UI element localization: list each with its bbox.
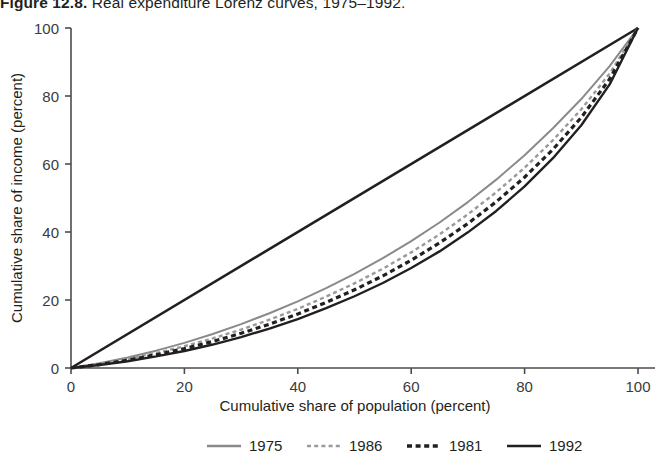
plot-series-group bbox=[71, 28, 638, 368]
equality-line bbox=[71, 28, 638, 368]
y-axis-ticks: 020406080100 bbox=[34, 20, 71, 377]
y-tick-label: 100 bbox=[34, 20, 59, 37]
x-tick-label: 60 bbox=[403, 378, 420, 395]
y-tick-label: 20 bbox=[42, 292, 59, 309]
legend-label-1975: 1975 bbox=[249, 437, 282, 454]
y-tick-label: 0 bbox=[51, 360, 59, 377]
y-axis-title: Cumulative share of income (percent) bbox=[8, 73, 25, 323]
x-tick-label: 0 bbox=[67, 378, 75, 395]
axes bbox=[71, 28, 655, 368]
x-tick-label: 20 bbox=[176, 378, 193, 395]
lorenz-curve-chart: 020406080100 020406080100 Cumulative sha… bbox=[0, 0, 669, 465]
chart-svg: 020406080100 020406080100 Cumulative sha… bbox=[0, 0, 669, 465]
x-axis-title: Cumulative share of population (percent) bbox=[220, 397, 491, 414]
x-tick-label: 40 bbox=[289, 378, 306, 395]
chart-legend: 1975198619811992 bbox=[207, 437, 582, 454]
legend-label-1981: 1981 bbox=[449, 437, 482, 454]
x-tick-label: 80 bbox=[516, 378, 533, 395]
legend-label-1986: 1986 bbox=[349, 437, 382, 454]
y-tick-label: 60 bbox=[42, 156, 59, 173]
x-tick-label: 100 bbox=[625, 378, 650, 395]
y-tick-label: 40 bbox=[42, 224, 59, 241]
legend-label-1992: 1992 bbox=[549, 437, 582, 454]
x-axis-ticks: 020406080100 bbox=[67, 368, 651, 395]
y-tick-label: 80 bbox=[42, 88, 59, 105]
